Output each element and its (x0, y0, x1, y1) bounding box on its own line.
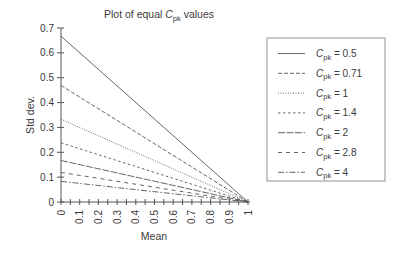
x-tick-label: 0 (56, 210, 67, 216)
x-axis-label: Mean (141, 230, 167, 242)
x-tick-label: 0.8 (205, 210, 216, 224)
chart-title: Plot of equal Cpk values (104, 8, 214, 23)
y-tick-label: 0 (48, 197, 54, 208)
y-tick-label: 0.4 (40, 97, 54, 108)
x-tick-label: 0.9 (224, 210, 235, 224)
x-tick-label: 0.1 (74, 210, 85, 224)
x-tick-label: 0.5 (149, 210, 160, 224)
x-tick-label: 0.4 (130, 210, 141, 224)
x-tick-label: 1 (243, 210, 254, 216)
y-tick-label: 0.2 (40, 147, 54, 158)
series-line-cpk-1_4 (61, 143, 248, 202)
axes: 00.10.20.30.40.50.60.700.10.20.30.40.50.… (40, 23, 253, 224)
cpk-chart: Plot of equal Cpk values 00.10.20.30.40.… (0, 0, 393, 255)
y-tick-label: 0.5 (40, 72, 54, 83)
y-tick-label: 0.1 (40, 172, 54, 183)
y-tick-label: 0.7 (40, 23, 54, 34)
x-tick-label: 0.2 (93, 210, 104, 224)
series-line-cpk-0_5 (61, 36, 248, 202)
legend: Cpk = 0.5Cpk = 0.71Cpk = 1Cpk = 1.4Cpk =… (267, 38, 385, 181)
y-axis-label: Std dev. (24, 96, 36, 134)
series-line-cpk-1 (61, 119, 248, 202)
x-tick-label: 0.3 (112, 210, 123, 224)
x-tick-label: 0.7 (186, 210, 197, 224)
y-tick-label: 0.6 (40, 47, 54, 58)
series-line-cpk-2 (61, 160, 248, 202)
plot-area (61, 36, 248, 202)
y-tick-label: 0.3 (40, 122, 54, 133)
x-tick-label: 0.6 (168, 210, 179, 224)
